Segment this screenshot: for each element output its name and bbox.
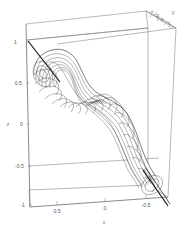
x-tick-label-0.5: 0.5 xyxy=(53,208,60,214)
tube-surface-mesh xyxy=(30,49,166,198)
tube-silhouette xyxy=(34,49,159,189)
z-tick-label-1: 1 xyxy=(14,39,17,45)
box-edge-far-vertical xyxy=(146,11,148,28)
box-edge-front-left xyxy=(26,24,30,207)
plot-canvas: 1 0.5 0 -0.5 -1 z 0.5 0 -0.5 x 0.25 0.5 … xyxy=(0,0,183,237)
box-bottom-inner-edge xyxy=(29,185,148,190)
x-axis-ticks xyxy=(57,195,146,205)
z-tick-label-neg1: -1 xyxy=(20,202,25,208)
x-axis-title: x xyxy=(103,219,106,225)
z-tick-label-0.5: 0.5 xyxy=(15,80,22,86)
box-edge-back-right xyxy=(168,28,176,197)
z-tick-label-neg0.5: -0.5 xyxy=(15,163,24,169)
y-axis-title: y xyxy=(172,9,175,15)
x-tick-label-0: 0 xyxy=(104,205,107,211)
z-axis-title: z xyxy=(7,121,10,127)
plot-svg: 1 0.5 0 -0.5 -1 z 0.5 0 -0.5 x 0.25 0.5 … xyxy=(0,0,183,237)
x-tick-label-neg0.5: -0.5 xyxy=(142,202,151,208)
z-tick-label-0: 0 xyxy=(20,121,23,127)
